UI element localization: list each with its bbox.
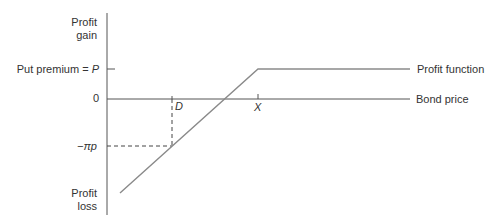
bond-price-label: Bond price <box>416 93 469 106</box>
zero-text: 0 <box>93 92 99 104</box>
premium-label: Put premium = P <box>0 63 99 76</box>
put-profit-diagram: Profit gain Put premium = P 0 −πp Profit… <box>0 0 501 219</box>
premium-prefix: Put premium = <box>17 63 92 75</box>
premium-symbol: P <box>92 63 99 75</box>
loss-text: loss <box>40 200 97 213</box>
d-text: D <box>175 100 183 112</box>
profit-function-text: Profit function <box>417 63 484 75</box>
profit-function-label: Profit function <box>417 63 484 76</box>
zero-label: 0 <box>80 92 99 105</box>
profit-function-line <box>120 69 410 193</box>
y-axis-bottom-label: Profit loss <box>40 187 97 213</box>
y-axis-top-label: Profit gain <box>40 16 97 42</box>
x-strike-label: X <box>254 101 261 114</box>
loss-level-label: −πp <box>60 140 97 153</box>
profit-text: Profit <box>40 16 97 29</box>
profit-text-bottom: Profit <box>40 187 97 200</box>
gain-text: gain <box>40 29 97 42</box>
x-text: X <box>254 101 261 113</box>
loss-level-text: −πp <box>77 140 97 152</box>
bond-price-text: Bond price <box>416 93 469 105</box>
d-label: D <box>175 100 183 113</box>
